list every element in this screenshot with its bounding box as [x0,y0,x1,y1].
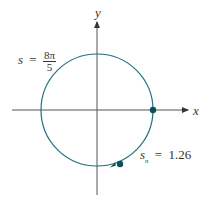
start-point [150,107,156,113]
y-axis-label: y [95,6,101,19]
x-axis-label: x [193,104,199,117]
s-equation-label: s = 8π 5 [18,50,56,73]
unit-circle-diagram: y x s = 8π 5 sn = 1.26 [0,0,211,206]
diagram-canvas [0,0,211,206]
s-n-equation-label: sn = 1.26 [140,148,191,165]
fraction: 8π 5 [43,50,56,73]
s-n-point [117,161,123,167]
